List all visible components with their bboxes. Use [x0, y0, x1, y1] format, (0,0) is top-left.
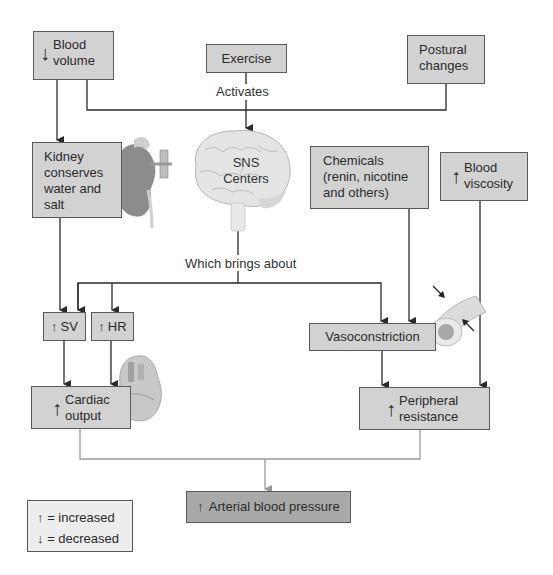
sv-label: SV — [61, 319, 78, 335]
blood-volume-line2: volume — [53, 53, 95, 69]
blood-volume-box: ↓ Blood volume — [33, 31, 114, 80]
viscosity-line2: viscosity — [464, 176, 513, 192]
chemicals-line1: Chemicals — [323, 153, 428, 169]
arterial-bp-label: Arterial blood pressure — [209, 499, 340, 515]
exercise-box: Exercise — [206, 44, 287, 73]
blood-viscosity-box: ↑ Blood viscosity — [440, 152, 528, 201]
sns-centers-label: SNS Centers — [206, 155, 286, 187]
postural-changes-box: Postural changes — [407, 35, 485, 84]
peripheral-resistance-box: ↑ Peripheral resistance — [359, 387, 490, 430]
blood-volume-line1: Blood — [53, 37, 95, 53]
kidney-line2: conserves — [44, 165, 121, 181]
peripheral-line2: resistance — [399, 409, 458, 425]
peripheral-line1: Peripheral — [399, 393, 458, 409]
chemicals-line2: (renin, nicotine — [323, 169, 428, 185]
hr-label: HR — [108, 319, 127, 335]
up-arrow-icon: ↑ — [51, 319, 58, 335]
postural-line2: changes — [419, 58, 484, 74]
sns-line1: SNS — [206, 155, 286, 171]
cardiac-line2: output — [65, 408, 110, 424]
postural-line1: Postural — [419, 42, 484, 58]
arterial-blood-pressure-box: ↑ Arterial blood pressure — [186, 491, 351, 523]
up-arrow-icon: ↑ — [37, 510, 44, 525]
cardiac-output-box: ↑ Cardiac output — [31, 386, 131, 429]
legend-increased: ↑ = increased — [37, 507, 132, 528]
legend-increased-label: = increased — [47, 510, 115, 525]
vasoconstriction-box: Vasoconstriction — [309, 323, 436, 351]
vasoconstriction-label: Vasoconstriction — [325, 329, 419, 345]
chemicals-line3: and others) — [323, 185, 428, 201]
exercise-label: Exercise — [222, 51, 272, 67]
down-arrow-icon: ↓ — [40, 43, 50, 63]
sns-line2: Centers — [206, 171, 286, 187]
sv-box: ↑ SV — [43, 312, 86, 341]
kidney-line1: Kidney — [44, 149, 121, 165]
up-arrow-icon: ↑ — [386, 399, 396, 419]
vessel-illustration — [430, 286, 486, 346]
kidney-line3: water and — [44, 181, 121, 197]
up-arrow-icon: ↑ — [98, 319, 105, 335]
legend: ↑ = increased ↓ = decreased — [27, 500, 133, 552]
hr-box: ↑ HR — [91, 312, 134, 341]
cardiac-line1: Cardiac — [65, 392, 110, 408]
up-arrow-icon: ↑ — [451, 166, 461, 186]
connector-lines — [0, 0, 553, 575]
up-arrow-icon: ↑ — [52, 398, 62, 418]
legend-decreased-label: = decreased — [47, 531, 119, 546]
up-arrow-icon: ↑ — [197, 499, 204, 515]
viscosity-line1: Blood — [464, 160, 513, 176]
legend-decreased: ↓ = decreased — [37, 528, 132, 549]
chemicals-box: Chemicals (renin, nicotine and others) — [310, 146, 429, 209]
kidney-box: Kidney conserves water and salt — [32, 142, 122, 218]
down-arrow-icon: ↓ — [37, 531, 44, 546]
kidney-line4: salt — [44, 197, 121, 213]
kidney-illustration — [114, 137, 172, 228]
which-brings-about-label: Which brings about — [183, 256, 298, 271]
activates-label: Activates — [214, 84, 271, 99]
